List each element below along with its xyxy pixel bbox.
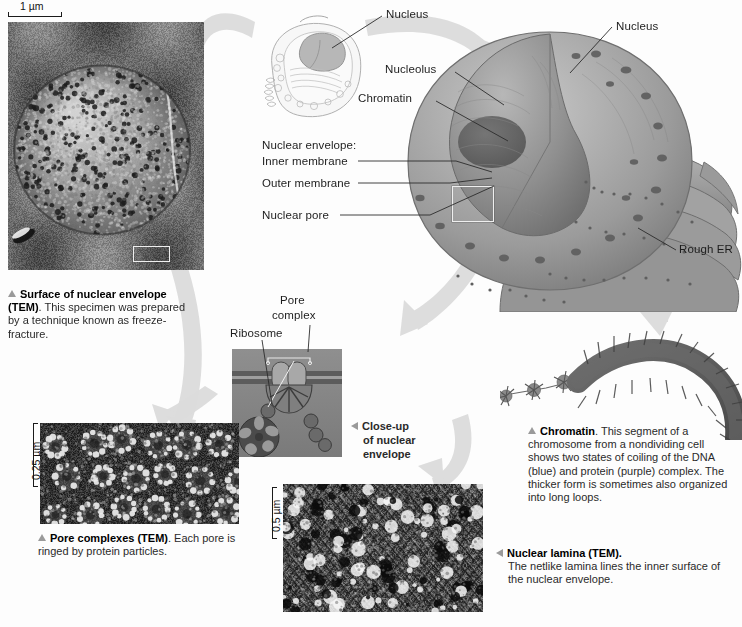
label-nucleus-main: Nucleus xyxy=(616,20,658,33)
caption-pore-complexes: Pore complexes (TEM). Each pore is ringe… xyxy=(38,532,250,558)
arrow-tem-to-closeup xyxy=(166,256,202,448)
label-nucleolus: Nucleolus xyxy=(385,63,436,76)
close-up-line-1: Close-up xyxy=(362,420,409,432)
triangle-up-icon xyxy=(8,290,16,297)
nucleolus-shape xyxy=(458,116,526,168)
scale-bar-1um-label: 1 µm xyxy=(20,0,44,12)
tem-highlight-box xyxy=(133,246,170,262)
label-inner-membrane: Inner membrane xyxy=(262,155,348,168)
triangle-left-icon xyxy=(496,549,503,557)
scale-bar-05um-label: 0.5 µm xyxy=(270,500,282,532)
triangle-up-icon xyxy=(528,427,536,434)
micrograph-surface-of-nuclear-envelope xyxy=(8,22,204,270)
cell-inset-illustration xyxy=(244,14,372,126)
close-up-line-3: envelope xyxy=(351,447,411,461)
label-nucleus-cell-inset: Nucleus xyxy=(386,8,428,21)
caption-chromatin-title: Chromatin xyxy=(540,425,595,437)
label-chromatin: Chromatin xyxy=(358,92,412,105)
label-ribosome: Ribosome xyxy=(230,327,283,340)
triangle-up-icon xyxy=(38,534,46,541)
label-rough-er: Rough ER xyxy=(679,243,733,256)
caption-surface-of-nuclear-envelope: Surface of nuclear envelope (TEM). This … xyxy=(8,288,188,341)
label-nuclear-pore: Nuclear pore xyxy=(262,209,329,222)
scale-bar-1um xyxy=(8,12,62,17)
label-pore-complex-line2: complex xyxy=(272,309,316,322)
caption-chromatin: Chromatin. This segment of a chromosome … xyxy=(528,425,734,504)
micrograph-pore-complexes xyxy=(40,423,239,524)
chromatin-illustration xyxy=(500,330,742,440)
close-up-line-2: of nuclear xyxy=(351,433,416,447)
nucleus-highlight-box xyxy=(452,186,494,222)
caption-pore-title: Pore complexes (TEM) xyxy=(50,532,168,544)
label-nuclear-envelope-group: Nuclear envelope: xyxy=(262,139,356,152)
nucleus-figure: 1 µm Surface of nuclear envelope (TEM). … xyxy=(0,0,742,627)
triangle-left-icon xyxy=(351,422,358,430)
label-pore-complex-line1: Pore xyxy=(280,294,305,307)
caption-lamina-title: Nuclear lamina (TEM). xyxy=(507,547,622,559)
nucleus-illustration xyxy=(400,22,742,312)
micrograph-nuclear-lamina xyxy=(283,484,483,612)
caption-close-up-of-nuclear-envelope: Close-up of nuclear envelope xyxy=(351,419,455,461)
micrograph-close-up-nuclear-envelope xyxy=(232,349,342,457)
caption-nuclear-lamina: Nuclear lamina (TEM). The netlike lamina… xyxy=(496,547,724,587)
label-outer-membrane: Outer membrane xyxy=(262,177,350,190)
caption-lamina-body: The netlike lamina lines the inner surfa… xyxy=(496,560,724,586)
